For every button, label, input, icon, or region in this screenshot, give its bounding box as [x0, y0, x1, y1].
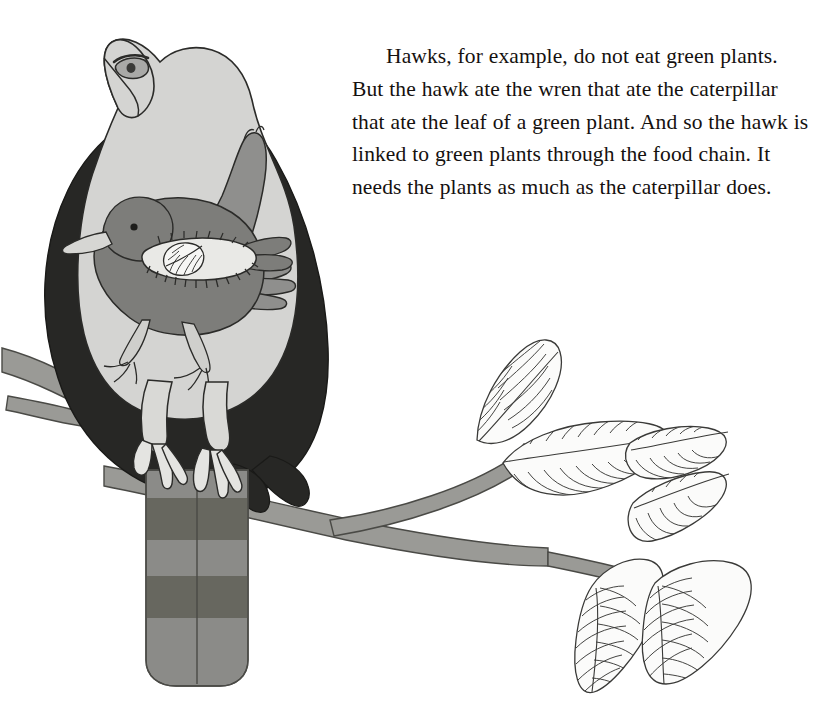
wren-eye [130, 223, 137, 230]
body-paragraph: Hawks, for example, do not eat green pla… [352, 40, 814, 204]
leaf-f [642, 561, 751, 684]
leaf-a [470, 328, 561, 443]
leafy-twig [470, 328, 751, 693]
text-block: Hawks, for example, do not eat green pla… [352, 40, 814, 204]
hawk-tail [146, 470, 248, 686]
page-root: Hawks, for example, do not eat green pla… [0, 0, 825, 724]
leaf-inside-caterpillar [164, 243, 204, 276]
